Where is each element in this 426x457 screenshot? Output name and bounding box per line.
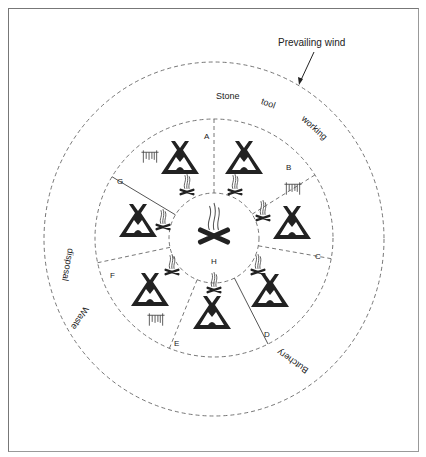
- zone-label-butchery: Butchery: [275, 347, 310, 376]
- zone-label-stone: Stone: [216, 91, 240, 101]
- sector-label-e: E: [174, 339, 179, 348]
- tent-icon: [161, 141, 199, 174]
- drying-rack-icon: [284, 182, 301, 194]
- hearth-icon: [181, 174, 194, 194]
- zone-label-working: working: [299, 113, 329, 142]
- hearth-icon: [229, 174, 242, 194]
- divider-d: [234, 278, 268, 344]
- sector-label-d: D: [264, 330, 270, 339]
- sector-label-c: C: [315, 252, 321, 261]
- prevailing-wind-label: Prevailing wind: [278, 37, 345, 48]
- hearth-icon: [157, 209, 170, 229]
- central-hearth-icon: [201, 203, 228, 242]
- divider-b: [252, 175, 315, 214]
- sector-label-h: H: [211, 257, 217, 266]
- sector-label-b: B: [286, 163, 291, 172]
- hearth-icon: [252, 254, 265, 274]
- divider-f: [98, 247, 170, 262]
- tent-icon: [119, 204, 157, 237]
- zone-label-waste: Waste: [69, 305, 91, 332]
- tent-icon: [131, 273, 169, 306]
- camp-layout-diagram: H A B C D E F G Stone tool working dispo…: [0, 0, 426, 457]
- drying-rack-icon: [141, 150, 158, 162]
- drying-rack-icon: [147, 313, 164, 325]
- sector-label-f: F: [110, 271, 115, 280]
- zone-label-disposal: disposal: [60, 248, 76, 282]
- hearth-icon: [208, 272, 221, 292]
- tent-icon: [273, 206, 311, 239]
- tent-icon: [193, 296, 231, 329]
- wind-arrow-icon: [298, 52, 314, 85]
- tent-icon: [251, 274, 289, 307]
- zone-label-tool: tool: [260, 96, 277, 110]
- sector-label-g: G: [117, 177, 123, 186]
- hearth-icon: [166, 254, 179, 274]
- sector-label-a: A: [204, 132, 210, 141]
- tent-icon: [225, 141, 263, 174]
